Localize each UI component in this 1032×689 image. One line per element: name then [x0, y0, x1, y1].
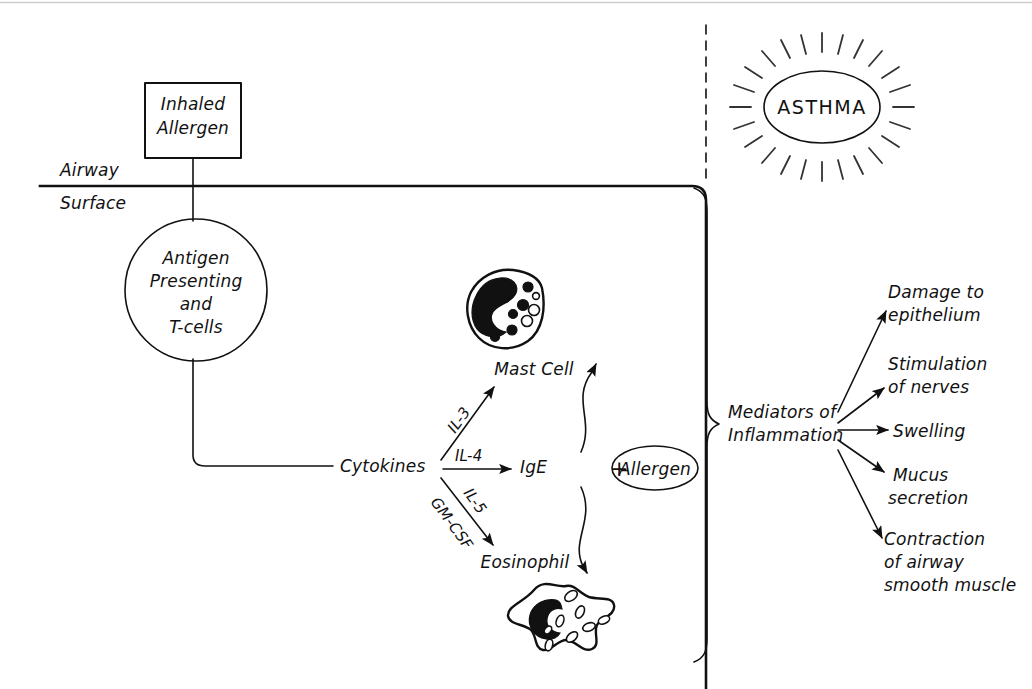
arrow-to-contraction [838, 450, 882, 538]
outcome-mucus-line2: secretion [888, 488, 968, 508]
airway-label-bottom: Surface [60, 193, 126, 213]
outcome-damage-line2: epithelium [888, 305, 981, 325]
outcome-stimulation-line1: Stimulation [888, 354, 987, 374]
ige-to-eosinophil-curve [579, 487, 587, 573]
outcome-contraction-line1: Contraction [884, 529, 985, 549]
apc-line2: Presenting [150, 271, 243, 291]
cytokines-label: Cytokines [340, 456, 425, 476]
airway-label-top: Airway [59, 160, 120, 180]
outcome-stimulation-line2: of nerves [888, 377, 969, 397]
outcome-mucus-line1: Mucus [893, 465, 948, 485]
arrow-to-damage [838, 311, 886, 412]
apc-line3: and [180, 294, 213, 314]
mast-cell-label: Mast Cell [494, 359, 574, 379]
asthma-diagram: Inhaled Allergen Airway Surface Antigen … [0, 0, 1032, 689]
asthma-label: ASTHMA [777, 96, 866, 118]
diagram-canvas: Inhaled Allergen Airway Surface Antigen … [0, 0, 1032, 689]
inhaled-allergen-line1: Inhaled [161, 94, 225, 114]
ige-to-mastcell-curve [581, 364, 596, 452]
mediators-line2: Inflammation [728, 425, 843, 445]
apc-line4: T-cells [169, 317, 223, 337]
outcome-contraction-line2: of airway [884, 552, 965, 572]
allergen-oval-label: Allergen [618, 459, 691, 479]
mast-cell-illustration [467, 270, 543, 349]
arrow-to-stimulation [838, 388, 884, 423]
outcome-contraction-line3: smooth muscle [884, 575, 1016, 595]
outcome-swelling-line1: Swelling [893, 421, 966, 441]
il4-label: IL-4 [455, 447, 482, 465]
eosinophil-label: Eosinophil [481, 552, 570, 572]
eosinophil-illustration [508, 584, 614, 652]
arrow-to-mucus [838, 440, 884, 472]
mediators-line1: Mediators of [728, 402, 839, 422]
ige-label: IgE [520, 457, 547, 477]
inhaled-allergen-line2: Allergen [156, 118, 229, 138]
il5-label: IL-5 [460, 485, 491, 518]
outcome-damage-line1: Damage to [888, 282, 984, 302]
il3-label: IL-3 [444, 404, 475, 437]
apc-to-cytokines-connector [193, 359, 333, 466]
apc-line1: Antigen [161, 248, 229, 268]
